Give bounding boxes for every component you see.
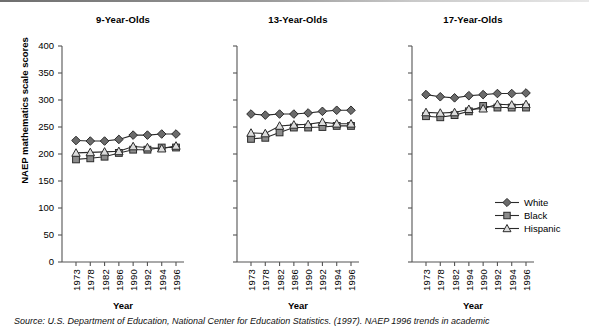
y-tick-label: 250 <box>20 121 54 132</box>
x-tick-label: 1986 <box>114 269 125 291</box>
legend-item-white[interactable]: White <box>494 196 560 209</box>
x-tick-label: 1996 <box>346 269 357 291</box>
y-tick-label: 100 <box>20 202 54 213</box>
x-tick-label: 1982 <box>450 269 461 291</box>
x-tick-label: 1982 <box>100 269 111 291</box>
x-tick-label: 1996 <box>171 269 182 291</box>
y-tick-label: 200 <box>20 148 54 159</box>
x-tick-label: 1986 <box>289 269 300 291</box>
x-tick-label: 1990 <box>478 269 489 291</box>
x-tick-label: 1992 <box>142 269 153 291</box>
square-marker-icon <box>494 209 520 222</box>
naep-math-trend-figure: NAEP mathematics scale scores WhiteBlack… <box>0 0 589 326</box>
x-axis-title: Year <box>62 300 184 311</box>
x-tick-label: 1978 <box>260 269 271 291</box>
x-tick-label: 1992 <box>317 269 328 291</box>
x-tick-label: 1994 <box>507 269 518 291</box>
x-tick-label: 1973 <box>421 269 432 291</box>
legend-label: Hispanic <box>524 223 560 234</box>
y-tick-label: 50 <box>20 229 54 240</box>
legend: WhiteBlackHispanic <box>494 196 560 235</box>
x-tick-label: 1982 <box>275 269 286 291</box>
x-tick-label: 1994 <box>157 269 168 291</box>
x-tick-label: 1990 <box>128 269 139 291</box>
source-note: Source: U.S. Department of Education, Na… <box>14 316 489 326</box>
x-tick-label: 1978 <box>85 269 96 291</box>
triangle-marker-icon <box>494 222 520 235</box>
x-tick-label: 1978 <box>435 269 446 291</box>
legend-label: Black <box>524 210 547 221</box>
y-tick-label: 0 <box>20 256 54 267</box>
x-tick-label: 1992 <box>492 269 503 291</box>
panel-title: 9-Year-Olds <box>62 14 184 25</box>
panel-title: 17-Year-Olds <box>412 14 534 25</box>
x-tick-label: 1973 <box>71 269 82 291</box>
legend-item-black[interactable]: Black <box>494 209 560 222</box>
x-tick-label: 1996 <box>521 269 532 291</box>
x-tick-label: 1994 <box>332 269 343 291</box>
legend-label: White <box>524 197 548 208</box>
x-tick-label: 1994 <box>464 269 475 291</box>
legend-item-hispanic[interactable]: Hispanic <box>494 222 560 235</box>
x-tick-label: 1990 <box>303 269 314 291</box>
y-tick-label: 400 <box>20 40 54 51</box>
y-tick-label: 300 <box>20 94 54 105</box>
x-tick-label: 1973 <box>246 269 257 291</box>
panel-title: 13-Year-Olds <box>237 14 359 25</box>
y-tick-label: 350 <box>20 67 54 78</box>
y-tick-label: 150 <box>20 175 54 186</box>
diamond-marker-icon <box>494 196 520 209</box>
x-axis-title: Year <box>412 300 534 311</box>
x-axis-title: Year <box>237 300 359 311</box>
